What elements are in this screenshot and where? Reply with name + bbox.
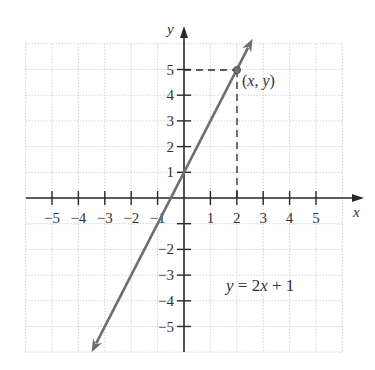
x-tick-label: −3 [97, 210, 113, 226]
x-axis-label: x [352, 204, 360, 220]
x-tick-label: −2 [123, 210, 139, 226]
y-tick-label: 4 [167, 87, 175, 103]
x-tick-label: 1 [207, 210, 215, 226]
graph-figure: x y −5−4−3−2−112345−5−4−3−212345 (x, y) … [0, 0, 375, 370]
y-tick-label: 1 [167, 164, 175, 180]
y-tick-label: −2 [158, 241, 174, 257]
y-tick-label: 3 [167, 113, 175, 129]
x-tick-label: 4 [286, 210, 294, 226]
y-axis-label: y [165, 21, 174, 37]
axes: x y [26, 21, 364, 352]
y-tick-label: 5 [167, 62, 175, 78]
equation-label: y = 2x + 1 [224, 276, 294, 295]
y-tick-label: −3 [158, 267, 174, 283]
x-tick-label: −4 [70, 210, 86, 226]
y-tick-label: −5 [158, 319, 174, 335]
x-tick-label: 5 [312, 210, 320, 226]
y-tick-label: 2 [167, 139, 175, 155]
x-tick-label: 2 [233, 210, 241, 226]
x-tick-label: −5 [44, 210, 60, 226]
point-marker [233, 66, 240, 73]
x-tick-label: 3 [259, 210, 267, 226]
point-label: (x, y) [242, 72, 275, 90]
y-tick-label: −4 [158, 293, 174, 309]
x-axis-arrow-icon [352, 194, 364, 202]
y-axis-arrow-icon [180, 26, 188, 38]
